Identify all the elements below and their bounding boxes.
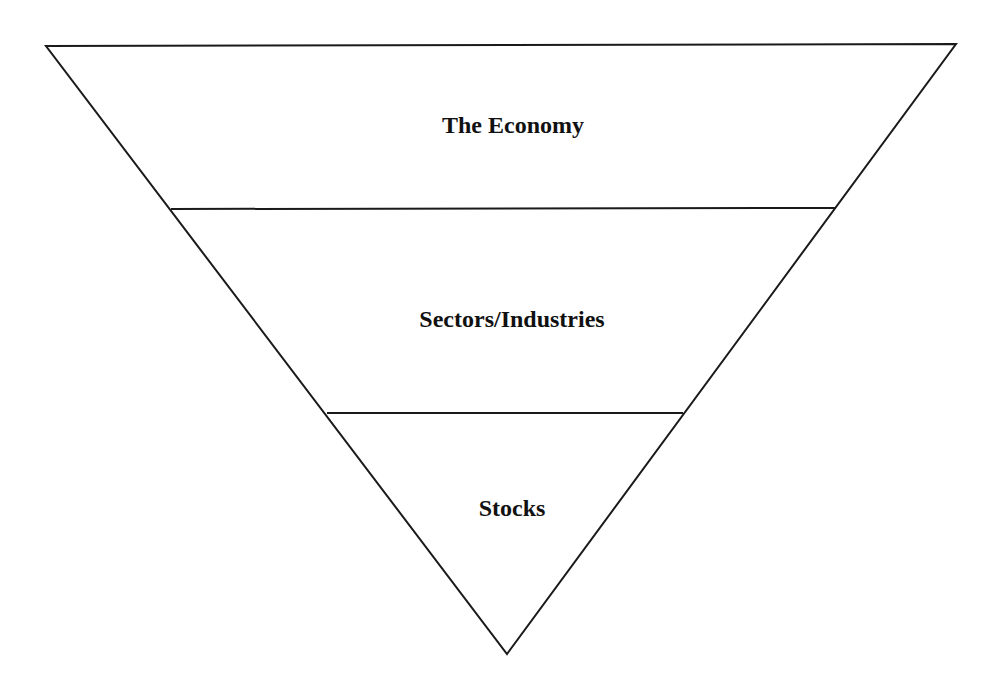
tier-label-stocks: Stocks [479,495,546,521]
tier-label-sectors-industries: Sectors/Industries [419,306,604,332]
tier-label-economy: The Economy [442,112,584,138]
tier-divider-economy-sectors [171,208,836,209]
inverted-pyramid-diagram: The Economy Sectors/Industries Stocks [0,0,997,696]
